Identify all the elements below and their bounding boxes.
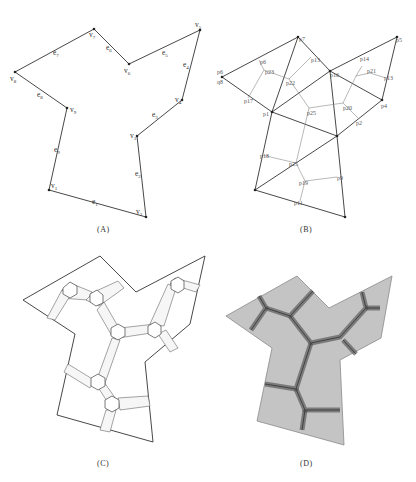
svg-text:p23: p23 <box>265 69 274 75</box>
panel-c-medial-axis <box>23 256 205 442</box>
svg-text:v7: v7 <box>89 30 96 40</box>
svg-text:v8: v8 <box>10 74 17 84</box>
svg-text:p4: p4 <box>381 103 387 109</box>
svg-text:v6: v6 <box>124 66 131 76</box>
svg-text:v9: v9 <box>70 105 77 115</box>
svg-text:p19: p19 <box>299 180 308 186</box>
figure: v1 v2 v3 v4 v5 v6 v7 v8 v9 e1 e2 e3 e4 e… <box>0 0 416 482</box>
svg-text:v3: v3 <box>130 131 137 141</box>
svg-text:v2: v2 <box>136 207 143 217</box>
svg-text:e5: e5 <box>162 48 168 58</box>
panel-d-shaded-medial-axis <box>226 276 392 445</box>
svg-text:p1: p1 <box>263 111 269 117</box>
svg-text:v5: v5 <box>195 20 202 30</box>
svg-text:e4: e4 <box>183 60 189 70</box>
svg-text:e7: e7 <box>53 48 59 58</box>
svg-text:p20: p20 <box>343 105 352 111</box>
caption-b: (B) <box>300 225 312 234</box>
svg-text:p6: p6 <box>260 59 266 65</box>
svg-text:p5: p5 <box>396 37 402 43</box>
svg-text:p16: p16 <box>330 72 339 78</box>
svg-text:p13: p13 <box>311 57 320 63</box>
svg-text:e9: e9 <box>54 145 60 155</box>
svg-text:e6: e6 <box>106 43 112 53</box>
svg-text:v4: v4 <box>175 95 182 105</box>
svg-text:p2: p2 <box>356 120 362 126</box>
caption-c: (C) <box>97 459 109 468</box>
panel-b-triangulation: p6q8 p6p23 p17p22 p13p7 p1p25 p16p14 p21… <box>217 36 402 219</box>
svg-text:p25: p25 <box>307 110 316 116</box>
svg-text:p25: p25 <box>289 161 298 167</box>
svg-text:p22: p22 <box>286 80 295 86</box>
caption-d: (D) <box>300 459 313 468</box>
panel-a-polygon: v1 v2 v3 v4 v5 v6 v7 v8 v9 e1 e2 e3 e4 e… <box>10 20 202 218</box>
svg-text:p18: p18 <box>260 153 269 159</box>
svg-text:e3: e3 <box>152 110 158 120</box>
svg-text:p9: p9 <box>337 175 343 181</box>
svg-text:e1: e1 <box>92 197 98 207</box>
svg-text:p17: p17 <box>244 98 253 104</box>
svg-text:v1: v1 <box>51 181 58 191</box>
svg-text:p6: p6 <box>217 69 223 75</box>
svg-text:p7: p7 <box>299 36 305 42</box>
svg-text:p21: p21 <box>367 68 376 74</box>
caption-a: (A) <box>97 225 110 234</box>
svg-text:p14: p14 <box>360 56 369 62</box>
svg-text:p11: p11 <box>294 200 303 206</box>
svg-text:p13: p13 <box>384 75 393 81</box>
svg-text:q8: q8 <box>217 79 223 85</box>
